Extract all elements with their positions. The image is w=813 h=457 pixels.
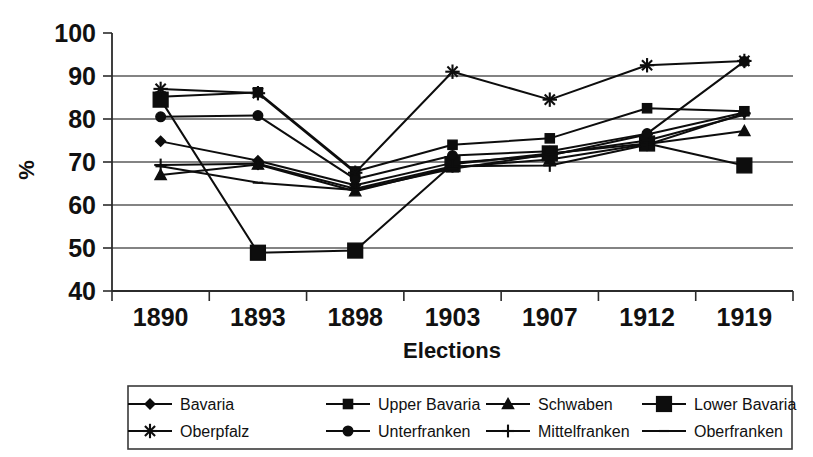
marker-upper-bavaria-1907 (545, 134, 554, 143)
legend-label: Upper Bavaria (378, 396, 480, 413)
line-chart: 405060708090100 189018931898190319071912… (0, 0, 813, 457)
marker-oberpfalz-1907 (543, 92, 557, 106)
y-tick-label-70: 70 (68, 148, 96, 176)
chart-background (0, 0, 813, 457)
marker-unterfranken-1890 (156, 112, 166, 122)
x-tick-label-1890: 1890 (133, 303, 189, 331)
x-axis-title: Elections (403, 338, 501, 363)
legend-label: Unterfranken (378, 423, 471, 440)
y-tick-label-90: 90 (68, 62, 96, 90)
y-tick-label-40: 40 (68, 277, 96, 305)
y-tick-label-80: 80 (68, 105, 96, 133)
x-tick-label-1903: 1903 (425, 303, 481, 331)
y-tick-label-100: 100 (54, 19, 96, 47)
legend-label: Oberfranken (694, 423, 783, 440)
marker-oberpfalz-1912 (640, 58, 654, 72)
marker-oberpfalz-1903 (445, 65, 459, 79)
x-tick-label-1898: 1898 (327, 303, 383, 331)
square-marker-icon (343, 399, 352, 408)
x-tick-label-1912: 1912 (619, 303, 675, 331)
y-tick-label-60: 60 (68, 191, 96, 219)
y-axis-title: % (14, 160, 39, 180)
marker-unterfranken-1893 (253, 111, 263, 121)
x-tick-label-1919: 1919 (717, 303, 773, 331)
circle-marker-icon (343, 426, 353, 436)
big-square-marker-icon (657, 397, 672, 412)
legend-label: Oberpfalz (180, 423, 249, 440)
x-tick-label-1907: 1907 (522, 303, 578, 331)
marker-unterfranken-1903 (448, 151, 458, 161)
marker-oberpfalz-1890 (153, 82, 167, 96)
legend-item-lower-bavaria[interactable]: Lower Bavaria (642, 396, 796, 413)
asterisk-marker-icon (143, 424, 157, 438)
marker-unterfranken-1919 (740, 57, 750, 67)
marker-upper-bavaria-1912 (642, 104, 651, 113)
legend-label: Schwaben (538, 396, 613, 413)
marker-oberpfalz-1893 (251, 86, 265, 100)
marker-lower-bavaria-1893 (251, 245, 266, 260)
marker-lower-bavaria-1919 (737, 158, 752, 173)
legend-label: Mittelfranken (538, 423, 630, 440)
chart-canvas: 405060708090100 189018931898190319071912… (0, 0, 813, 457)
legend-label: Lower Bavaria (694, 396, 796, 413)
marker-lower-bavaria-1898 (348, 243, 363, 258)
x-tick-label-1893: 1893 (230, 303, 286, 331)
legend-label: Bavaria (180, 396, 234, 413)
marker-upper-bavaria-1903 (448, 140, 457, 149)
y-tick-label-50: 50 (68, 234, 96, 262)
marker-unterfranken-1912 (642, 129, 652, 139)
